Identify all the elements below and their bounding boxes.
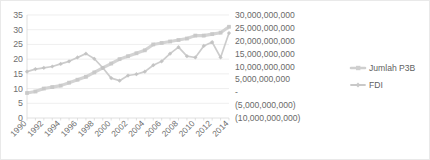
- left-tick-label: 20: [13, 54, 23, 64]
- left-tick-label: 30: [13, 25, 23, 35]
- x-tick-label: 2010: [176, 118, 196, 138]
- right-tick-label: (10,000,000,000): [235, 113, 301, 123]
- x-tick-label: 2002: [109, 118, 129, 138]
- chart-legend: Jumlah P3BFDI: [351, 63, 416, 90]
- x-tick-label: 1998: [75, 118, 95, 138]
- x-tick-label: 1996: [59, 118, 79, 138]
- left-tick-label: 10: [13, 84, 23, 94]
- right-tick-label: 20,000,000,000: [235, 36, 295, 46]
- legend-label: FDI: [369, 80, 383, 90]
- series-jumlah-p3b: [25, 25, 231, 95]
- left-tick-label: 25: [13, 39, 23, 49]
- legend-label: Jumlah P3B: [369, 63, 416, 73]
- chart-frame: 05101520253035 1990199219941996199820002…: [0, 0, 430, 160]
- x-tick-label: 1990: [8, 118, 28, 138]
- x-axis-tick-labels: 1990199219941996199820002002200420062008…: [8, 118, 230, 138]
- x-tick-label: 1994: [42, 118, 62, 138]
- right-tick-label: 30,000,000,000: [235, 10, 295, 20]
- legend-item-fdi[interactable]: FDI: [351, 80, 383, 90]
- right-tick-label: -: [235, 87, 238, 97]
- left-tick-label: 35: [13, 10, 23, 20]
- right-tick-label: 15,000,000,000: [235, 49, 295, 59]
- x-tick-label: 2004: [126, 118, 146, 138]
- x-tick-label: 1992: [25, 118, 45, 138]
- dual-axis-line-chart: 05101520253035 1990199219941996199820002…: [1, 1, 430, 160]
- legend-item-jumlah-p3b[interactable]: Jumlah P3B: [351, 63, 416, 73]
- series-layer: [25, 25, 231, 95]
- x-tick-label: 2014: [210, 118, 230, 138]
- x-tick-label: 2000: [92, 118, 112, 138]
- left-axis-tick-labels: 05101520253035: [13, 10, 23, 123]
- left-tick-label: 5: [18, 98, 23, 108]
- right-tick-label: 25,000,000,000: [235, 23, 295, 33]
- x-tick-label: 2008: [160, 118, 180, 138]
- x-tick-label: 2012: [193, 118, 213, 138]
- x-tick-label: 2006: [143, 118, 163, 138]
- left-tick-label: 15: [13, 69, 23, 79]
- right-axis-tick-labels: (10,000,000,000)(5,000,000,000)-5,000,00…: [235, 10, 301, 123]
- right-tick-label: 5,000,000,000: [235, 74, 290, 84]
- right-tick-label: 10,000,000,000: [235, 62, 295, 72]
- gridlines: [27, 15, 229, 103]
- axis-lines: [27, 15, 229, 118]
- right-tick-label: (5,000,000,000): [235, 100, 296, 110]
